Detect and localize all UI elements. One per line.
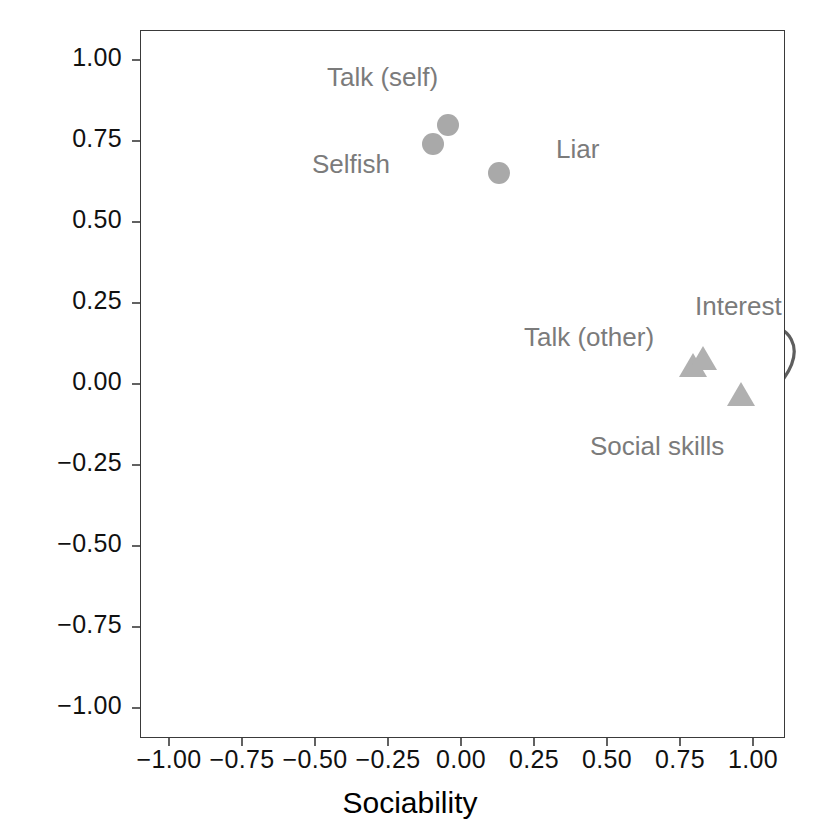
data-point-selfish [422, 133, 444, 155]
x-tick-label: −0.75 [210, 745, 275, 774]
x-tick-label: −0.25 [356, 745, 421, 774]
point-label-selfish: Selfish [312, 149, 390, 180]
x-tick-label: 1.00 [728, 745, 778, 774]
x-axis-title: Sociability [0, 786, 820, 820]
y-tick-label: −0.50 [57, 529, 122, 558]
y-tick-label: 0.25 [72, 286, 122, 315]
x-tick-label: −1.00 [137, 745, 202, 774]
point-label-talk-other: Talk (other) [524, 322, 654, 353]
y-tick-label: 0.75 [72, 124, 122, 153]
x-tick-label: −0.50 [283, 745, 348, 774]
y-tick-label: 1.00 [72, 43, 122, 72]
data-point-liar [488, 162, 510, 184]
data-point-talk-self [437, 114, 459, 136]
x-tick-label: 0.25 [509, 745, 559, 774]
data-point-social-skills [727, 382, 755, 406]
y-tick-label: 0.50 [72, 205, 122, 234]
y-tick-label: −0.75 [57, 610, 122, 639]
plot-area-border [140, 30, 785, 738]
scatter-plot-figure: −1.00−0.75−0.50−0.250.000.250.500.751.00… [0, 0, 820, 840]
y-tick-label: −1.00 [57, 691, 122, 720]
point-label-social-skills: Social skills [590, 431, 724, 462]
x-tick-label: 0.50 [582, 745, 632, 774]
x-tick-label: 0.75 [655, 745, 705, 774]
x-tick-label: 0.00 [436, 745, 486, 774]
data-point-interest [689, 346, 717, 370]
point-label-liar: Liar [556, 134, 599, 165]
y-tick-label: −0.25 [57, 448, 122, 477]
point-label-interest: Interest [695, 291, 782, 322]
y-tick-label: 0.00 [72, 367, 122, 396]
point-label-talk-self: Talk (self) [327, 62, 438, 93]
